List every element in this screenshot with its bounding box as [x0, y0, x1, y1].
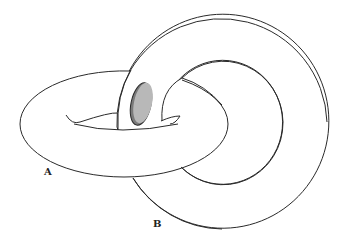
linked-tori-drawing: [0, 0, 340, 239]
label-torus-a: A: [44, 166, 52, 177]
label-torus-b: B: [153, 218, 161, 229]
diagram-canvas: A B: [0, 0, 340, 239]
